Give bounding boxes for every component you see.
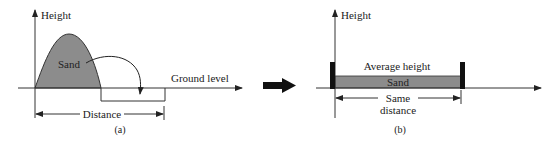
sand-label-b: Sand [387, 76, 410, 88]
caption-b: (b) [394, 124, 406, 136]
right-wall [460, 62, 465, 89]
panel-b: Height Average height Sand Same distance… [316, 9, 541, 136]
sand-label-a: Sand [58, 58, 81, 70]
sand-averaging-diagram: Height Sand Ground level Distance (a) He… [0, 0, 558, 146]
distance-label-b: distance [380, 104, 416, 116]
caption-a: (a) [114, 124, 125, 136]
transition-arrow-icon [263, 78, 296, 93]
pit [101, 88, 165, 101]
panel-a: Height Sand Ground level Distance (a) [18, 9, 242, 136]
same-label: Same [386, 92, 411, 104]
distance-label-a: Distance [83, 108, 122, 120]
height-label-b: Height [341, 9, 371, 21]
average-height-label: Average height [364, 60, 431, 72]
ground-level-label: Ground level [171, 72, 229, 84]
height-label-a: Height [41, 9, 71, 21]
left-wall [330, 62, 335, 89]
